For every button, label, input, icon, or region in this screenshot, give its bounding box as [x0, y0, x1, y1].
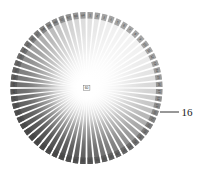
center-value-label: 60 [85, 86, 89, 90]
callout-label-16: 16 [182, 106, 194, 118]
rim-label-32: 32 [88, 159, 92, 163]
rim-label-48: 48 [12, 89, 16, 93]
radial-sector-disc-figure: 1234567891011121314151617181920212223242… [0, 0, 198, 181]
figure-root: 1234567891011121314151617181920212223242… [0, 0, 198, 181]
rim-label-16: 16 [157, 83, 161, 87]
rim-label-33: 33 [81, 159, 85, 163]
rim-label-17: 17 [157, 90, 161, 94]
rim-label-64: 64 [81, 13, 85, 17]
rim-label-49: 49 [12, 82, 16, 86]
